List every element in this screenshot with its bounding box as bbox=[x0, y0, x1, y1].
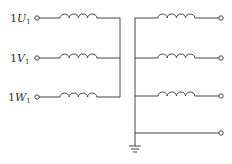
primary-winding-v: 1V1 bbox=[10, 52, 120, 66]
terminal-label-w: 1W1 bbox=[8, 91, 31, 105]
primary-winding-u: 1U1 bbox=[10, 12, 120, 26]
terminal-u bbox=[35, 16, 39, 20]
coil-icon bbox=[60, 14, 97, 18]
coil-icon bbox=[60, 54, 97, 58]
output-terminal bbox=[219, 16, 223, 20]
secondary-winding-2 bbox=[135, 54, 223, 60]
secondary-winding-3 bbox=[135, 92, 223, 98]
primary-winding-w: 1W1 bbox=[8, 91, 120, 105]
coil-icon bbox=[158, 92, 195, 96]
winding-diagram: 1U1 1V1 1W1 bbox=[0, 0, 232, 164]
neutral-line bbox=[135, 131, 223, 135]
terminal-w bbox=[35, 95, 39, 99]
neutral-terminal bbox=[219, 131, 223, 135]
terminal-label-u: 1U1 bbox=[10, 12, 31, 26]
coil-icon bbox=[60, 93, 97, 97]
coil-icon bbox=[158, 54, 195, 58]
output-terminal bbox=[219, 56, 223, 60]
terminal-v bbox=[35, 56, 39, 60]
secondary-winding-1 bbox=[135, 14, 223, 20]
coil-icon bbox=[158, 14, 195, 18]
ground-icon bbox=[129, 146, 141, 152]
output-terminal bbox=[219, 94, 223, 98]
terminal-label-v: 1V1 bbox=[10, 52, 29, 66]
